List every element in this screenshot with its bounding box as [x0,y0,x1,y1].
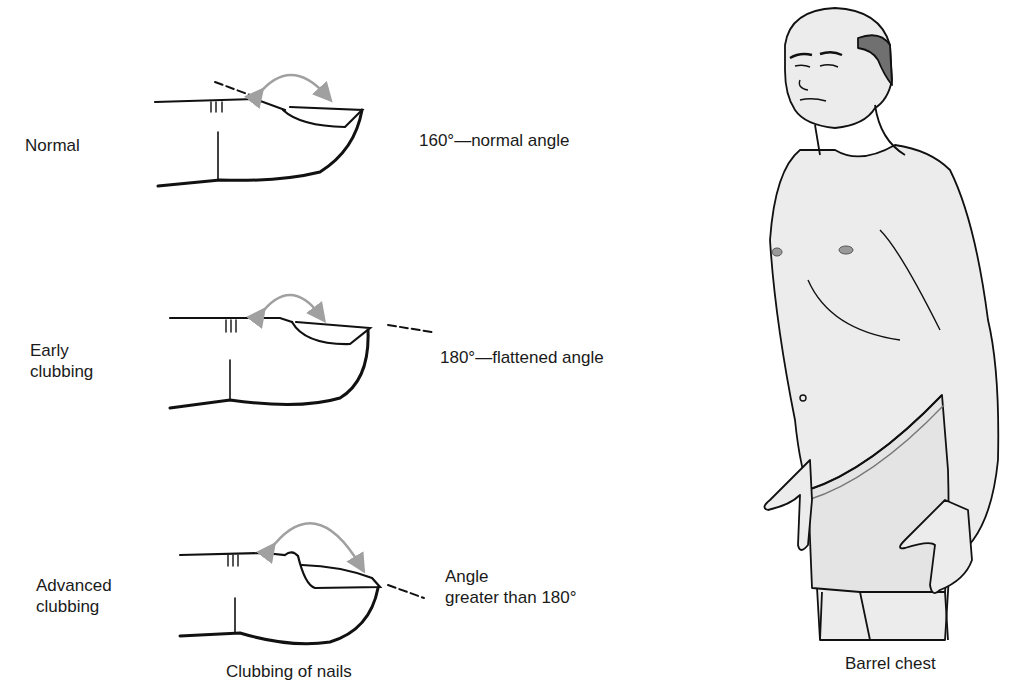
caption-clubbing-of-nails: Clubbing of nails [226,662,352,682]
angle-text-normal: 160°—normal angle [419,130,569,151]
angle-text-advanced-clubbing: Angle greater than 180° [445,566,577,608]
advanced-clubbing-finger-drawing [180,523,424,643]
angle-text-early-line-1: 180°—flattened angle [440,348,604,367]
stage-label-normal-line-1: Normal [25,136,80,155]
stage-label-advanced-line-2: clubbing [36,596,112,617]
angle-text-advanced-line-1: Angle [445,566,577,587]
stage-label-normal: Normal [25,135,80,156]
angle-text-normal-line-1: 160°—normal angle [419,131,569,150]
stage-label-early-line-1: Early [30,340,93,361]
caption-barrel-chest: Barrel chest [845,654,936,674]
stage-label-early-line-2: clubbing [30,361,93,382]
stage-label-advanced-line-1: Advanced [36,575,112,596]
normal-finger-drawing [155,75,362,186]
stage-label-advanced-clubbing: Advanced clubbing [36,575,112,617]
early-clubbing-finger-drawing [170,295,432,408]
angle-text-early-clubbing: 180°—flattened angle [440,347,604,368]
angle-text-advanced-line-2: greater than 180° [445,587,577,608]
stage-label-early-clubbing: Early clubbing [30,340,93,382]
barrel-chest-figure-drawing [764,8,998,640]
